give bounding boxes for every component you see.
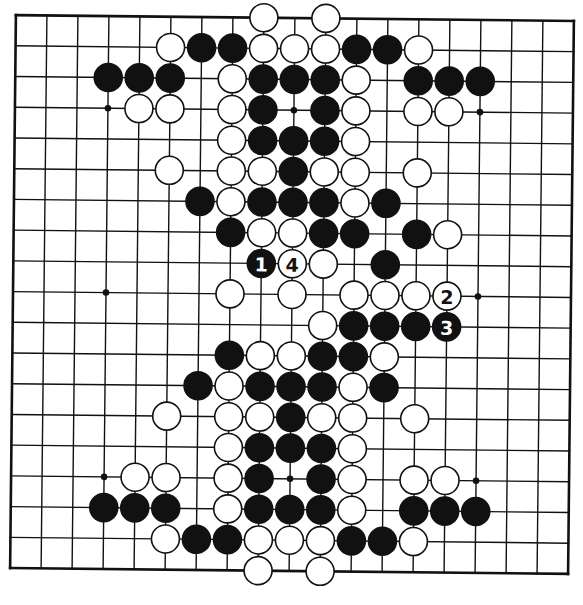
white-stone [306,557,334,585]
white-stone [401,405,429,433]
white-stone [247,219,275,247]
white-stone [244,557,272,585]
white-stone [404,36,432,64]
white-stone-icon [339,404,367,432]
white-stone-icon [153,402,181,430]
white-stone-icon [433,221,461,249]
white-stone [246,403,274,431]
white-stone-icon [155,156,183,184]
white-stone [370,343,398,371]
white-stone [280,35,308,63]
white-stone-icon [404,97,432,125]
white-stone-icon [218,65,246,93]
white-stone-icon [244,557,272,585]
white-stone-icon [151,525,179,553]
white-stone [341,158,369,186]
white-stone-icon [306,526,334,554]
white-stone [125,94,153,122]
white-stone [218,95,246,123]
white-stone-icon [340,281,368,309]
white-stone [218,65,246,93]
white-stone-icon [214,464,242,492]
white-stone-icon [214,495,242,523]
white-stone [248,157,276,185]
white-stone-icon [399,527,427,555]
white-stone [215,372,243,400]
white-stone [404,97,432,125]
white-stone-icon [246,403,274,431]
white-stone-icon [216,280,244,308]
white-stone-icon [244,526,272,554]
go-board: 1234 [0,0,583,605]
white-stone-icon [152,463,180,491]
white-stone-icon [218,95,246,123]
white-stone-icon [435,98,463,126]
white-stone-icon [338,496,366,524]
white-stone-icon [278,280,306,308]
white-stone [215,403,243,431]
white-stone [153,402,181,430]
white-stone-icon [339,373,367,401]
white-stone-icon [308,404,336,432]
white-stone-icon [338,465,366,493]
white-stone-icon [309,250,337,278]
white-stone [311,35,339,63]
white-stone [399,527,427,555]
white-stone [312,4,340,32]
white-stone-icon [400,466,428,494]
white-stone-icon [403,159,431,187]
white-stone [340,281,368,309]
white-stone [278,219,306,247]
white-stone-icon [156,95,184,123]
white-stone-icon [156,33,184,61]
white-stone [339,404,367,432]
white-stone [338,496,366,524]
white-stone-icon [401,405,429,433]
white-stone [249,34,277,62]
white-stone [341,127,369,155]
white-stone-icon [338,435,366,463]
white-stone-icon [311,35,339,63]
white-stone [400,466,428,494]
white-stone [244,526,272,554]
white-stone-icon [248,157,276,185]
white-stone [214,433,242,461]
white-stone-icon [431,466,459,494]
white-stone-move-2: 2 [433,282,461,310]
white-stone [121,463,149,491]
white-stone [338,465,366,493]
white-stone [152,463,180,491]
white-stone [250,4,278,32]
white-stone-icon [250,4,278,32]
white-stone-icon [215,403,243,431]
move-number-3: 3 [440,317,453,339]
white-stone-icon [341,127,369,155]
go-board-diagram: 1234 [0,0,583,605]
white-stone [217,157,245,185]
white-stone-icon [217,188,245,216]
white-stone [278,280,306,308]
white-stone [216,280,244,308]
white-stone-icon [310,158,338,186]
white-stone-icon [278,219,306,247]
white-stone [433,221,461,249]
white-stone [309,311,337,339]
white-stone [309,250,337,278]
white-stone-icon [306,557,334,585]
white-stone [431,466,459,494]
white-stone [338,435,366,463]
white-stone-icon [277,342,305,370]
white-stone [275,526,303,554]
move-number-2: 2 [440,286,453,308]
white-stone-icon [121,463,149,491]
white-stone-move-4: 4 [278,250,306,278]
white-stone-icon [280,35,308,63]
white-stone-icon [370,343,398,371]
white-stone [214,495,242,523]
white-stone [217,126,245,154]
white-stone-icon [217,157,245,185]
white-stone-icon [247,219,275,247]
white-stone [402,282,430,310]
white-stone [339,373,367,401]
white-stone-icon [249,34,277,62]
